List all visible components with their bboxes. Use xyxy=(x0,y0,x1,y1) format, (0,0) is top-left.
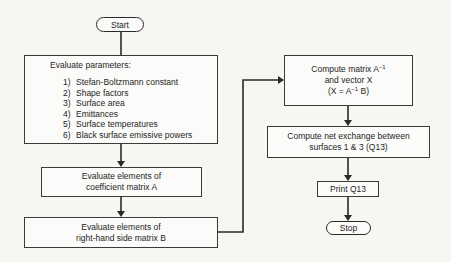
stop-label: Stop xyxy=(340,223,358,233)
coefficient-line2: coefficient matrix A xyxy=(86,182,157,193)
net-exchange-line2: surfaces 1 & 3 (Q13) xyxy=(309,142,387,153)
parameter-item: 2)Shape factors xyxy=(63,88,192,99)
coefficient-line1: Evaluate elements of xyxy=(82,171,161,182)
parameter-item: 4)Emittances xyxy=(63,109,192,120)
inverse-line1: Compute matrix A−1 xyxy=(311,64,385,75)
rhs-line1: Evaluate elements of xyxy=(81,222,160,233)
compute-inverse-box: Compute matrix A−1 and vector X (X = A−1… xyxy=(284,55,413,106)
parameter-item: 1)Stefan-Boltzmann constant xyxy=(63,77,192,88)
inverse-line2: and vector X xyxy=(325,75,373,86)
evaluate-parameters-title: Evaluate parameters: xyxy=(50,60,131,71)
stop-terminal: Stop xyxy=(326,221,371,235)
parameter-item: 5)Surface temperatures xyxy=(63,119,192,130)
print-label: Print Q13 xyxy=(330,184,366,195)
evaluate-parameters-box: Evaluate parameters: 1)Stefan-Boltzmann … xyxy=(24,55,218,144)
print-box: Print Q13 xyxy=(317,181,379,197)
parameter-item: 3)Surface area xyxy=(63,98,192,109)
rhs-matrix-box: Evaluate elements of right-hand side mat… xyxy=(24,217,218,248)
start-terminal: Start xyxy=(96,17,144,32)
net-exchange-line1: Compute net exchange between xyxy=(287,131,409,142)
flowchart-canvas: Start Evaluate parameters: 1)Stefan-Bolt… xyxy=(0,0,451,262)
parameter-list: 1)Stefan-Boltzmann constant 2)Shape fact… xyxy=(63,77,192,140)
rhs-line2: right-hand side matrix B xyxy=(76,233,166,244)
inverse-line3: (X = A−1 B) xyxy=(328,86,369,97)
start-label: Start xyxy=(111,20,129,30)
coefficient-matrix-box: Evaluate elements of coefficient matrix … xyxy=(41,167,202,197)
net-exchange-box: Compute net exchange between surfaces 1 … xyxy=(267,126,430,158)
parameter-item: 6)Black surface emissive powers xyxy=(63,130,192,141)
